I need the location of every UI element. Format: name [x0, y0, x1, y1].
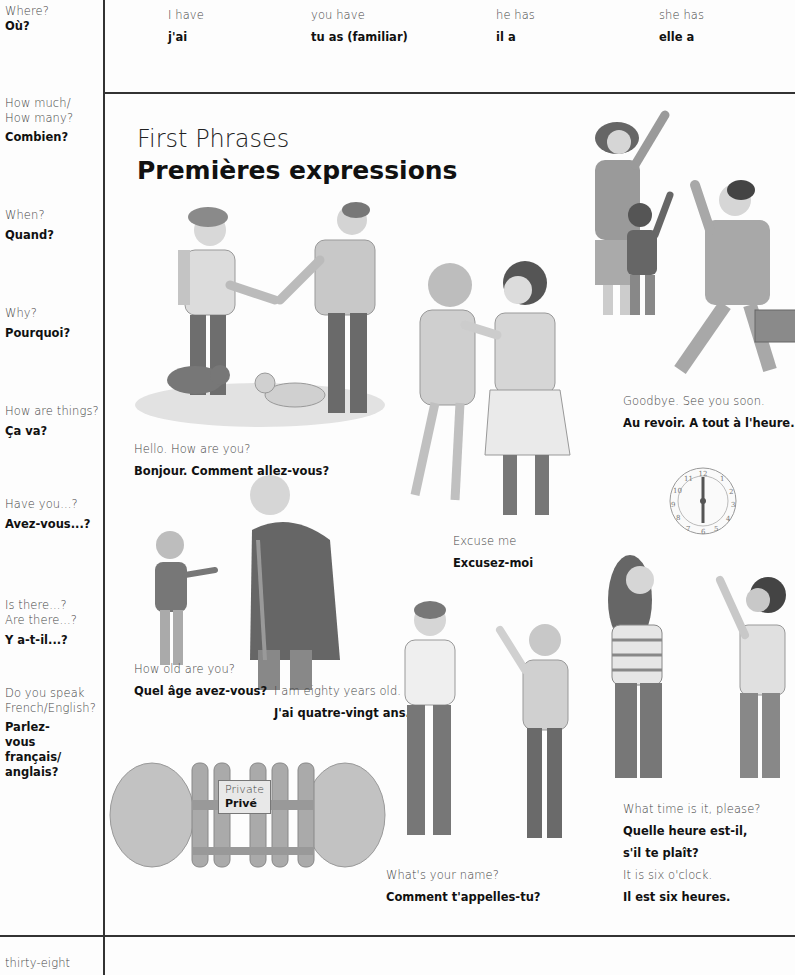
phrase-fr: Excusez-moi — [453, 552, 533, 574]
svg-text:3: 3 — [731, 501, 735, 509]
sidebar-fr: Où? — [5, 19, 100, 34]
verb-you-have: you have tu as (familiar) — [311, 4, 408, 48]
phrase-en: What's your name? — [386, 864, 541, 886]
sidebar-fr: Avez-vous...? — [5, 517, 100, 532]
sign-en: Private — [225, 783, 264, 797]
sidebar-en: When? — [5, 208, 100, 223]
sidebar-fr: Pourquoi? — [5, 326, 100, 341]
verb-en: she has — [659, 4, 704, 26]
verb-fr: j'ai — [168, 26, 204, 48]
sidebar-en: How much/ How many? — [5, 96, 95, 126]
svg-text:2: 2 — [729, 488, 733, 496]
title-english: First Phrases — [137, 125, 458, 153]
svg-text:10: 10 — [673, 487, 682, 495]
svg-text:4: 4 — [726, 515, 731, 523]
goodbye-illustration — [575, 100, 795, 390]
verb-fr: tu as (familiar) — [311, 26, 408, 48]
sidebar-item-do-you-speak: Do you speak French/English? Parlez-vous… — [5, 686, 103, 780]
verb-she-has: she has elle a — [659, 4, 704, 48]
phrase-fr: Quelle heure est-il, — [623, 820, 761, 842]
footer-divider — [0, 935, 795, 937]
title-french: Premières expressions — [137, 156, 458, 185]
verb-he-has: he has il a — [496, 4, 535, 48]
phrase-fr: Comment t'appelles-tu? — [386, 886, 541, 908]
clock-illustration: 12 1 2 3 4 5 6 7 8 9 10 11 — [668, 465, 738, 537]
phrase-en: It is six o'clock. — [623, 864, 730, 886]
sidebar-divider — [103, 0, 105, 975]
sidebar-item-how-much: How much/ How many? Combien? — [5, 96, 95, 145]
verb-fr: elle a — [659, 26, 704, 48]
name-illustration — [385, 600, 585, 865]
phrase-excuse-me: Excuse me Excusez-moi — [453, 530, 533, 574]
verb-fr: il a — [496, 26, 535, 48]
verb-en: he has — [496, 4, 535, 26]
sidebar-item-where: Where? Où? — [5, 4, 100, 34]
phrase-six-oclock: It is six o'clock. Il est six heures. — [623, 864, 730, 908]
phrase-goodbye: Goodbye. See you soon. Au revoir. A tout… — [623, 390, 795, 434]
phrase-how-old: How old are you? Quel âge avez-vous? — [134, 658, 267, 702]
svg-text:6: 6 — [701, 528, 706, 536]
sidebar-en: Is there...? Are there...? — [5, 598, 85, 628]
svg-text:1: 1 — [720, 475, 724, 483]
sidebar-item-why: Why? Pourquoi? — [5, 306, 100, 341]
phrase-fr: Quel âge avez-vous? — [134, 680, 267, 702]
excuse-me-illustration — [385, 255, 585, 525]
sidebar-item-have-you: Have you...? Avez-vous...? — [5, 497, 100, 532]
sidebar-en: How are things? — [5, 404, 103, 419]
phrase-en: How old are you? — [134, 658, 267, 680]
svg-text:8: 8 — [676, 514, 680, 522]
phrase-en: What time is it, please? — [623, 798, 761, 820]
verb-en: you have — [311, 4, 408, 26]
svg-text:12: 12 — [699, 470, 708, 478]
sidebar-item-is-there: Is there...? Are there...? Y a-t-il...? — [5, 598, 85, 648]
sidebar-fr: Quand? — [5, 228, 100, 243]
page-title: First Phrases Premières expressions — [137, 125, 458, 185]
phrase-fr: Au revoir. A tout à l'heure. — [623, 412, 795, 434]
handshake-illustration — [130, 195, 390, 435]
svg-text:9: 9 — [671, 501, 675, 509]
phrase-en: Hello. How are you? — [134, 438, 329, 460]
sidebar-en: Why? — [5, 306, 100, 321]
sidebar-fr: Combien? — [5, 130, 95, 145]
sign-fr: Privé — [225, 797, 264, 811]
sidebar-item-when: When? Quand? — [5, 208, 100, 243]
private-sign: Private Privé — [218, 780, 271, 814]
sidebar-item-how-are-things: How are things? Ça va? — [5, 404, 103, 439]
phrase-name: What's your name? Comment t'appelles-tu? — [386, 864, 541, 908]
sidebar-fr: Y a-t-il...? — [5, 633, 85, 648]
sidebar-en: Do you speak French/English? — [5, 686, 103, 716]
verb-i-have: I have j'ai — [168, 4, 204, 48]
phrase-fr: Il est six heures. — [623, 886, 730, 908]
phrase-what-time: What time is it, please? Quelle heure es… — [623, 798, 761, 864]
sidebar-en: Where? — [5, 4, 100, 19]
phrase-fr-continued: s'il te plaît? — [623, 842, 761, 864]
sidebar-en: Have you...? — [5, 497, 100, 512]
phrase-en: Excuse me — [453, 530, 533, 552]
svg-text:5: 5 — [714, 525, 718, 533]
svg-text:11: 11 — [684, 475, 693, 483]
verb-en: I have — [168, 4, 204, 26]
svg-text:7: 7 — [686, 525, 690, 533]
phrase-en: Goodbye. See you soon. — [623, 390, 795, 412]
sidebar-fr: Parlez-vous français/ anglais? — [5, 720, 75, 780]
page-number: thirty-eight — [5, 956, 70, 971]
sidebar-fr: Ça va? — [5, 424, 103, 439]
time-illustration — [600, 555, 795, 785]
top-row-divider — [103, 92, 795, 94]
